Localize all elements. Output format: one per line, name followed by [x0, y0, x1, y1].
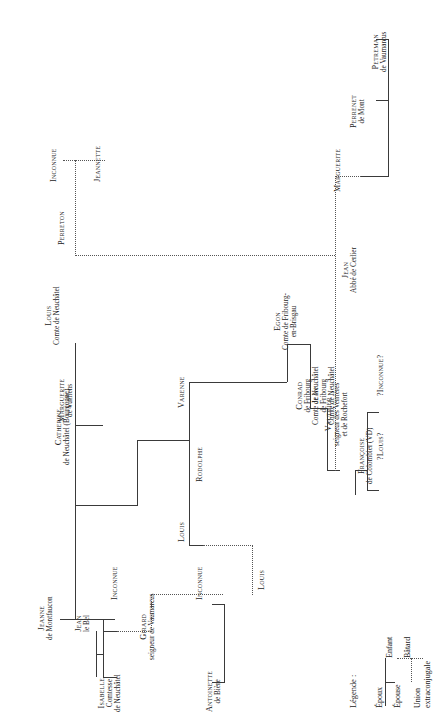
connector-jeanlebel-inconnue-dotted: [117, 631, 151, 632]
connector-egon-conrad: [287, 344, 310, 345]
connector-vauthier-bar: [355, 470, 368, 471]
connector-louis2-inconnue3-dotted: [203, 545, 251, 546]
node-louis-2: Louis: [178, 522, 187, 542]
connector-francoise-spine: [355, 470, 356, 495]
legend-sample-union-dotted: [397, 658, 423, 659]
node-name: Jeannette: [94, 146, 103, 182]
connector-jean-vauthier: [327, 470, 340, 471]
node-name: Louis: [178, 522, 187, 542]
legend: Légende : Époux Épouse Union extraconjug…: [341, 548, 437, 713]
connector-louis2-stub: [189, 545, 203, 546]
connector-to-rodolphe-varenne: [137, 440, 189, 441]
legend-epouse: Épouse: [393, 684, 402, 708]
connector-inconnue-q-stub: [367, 412, 379, 413]
connector-conrad-jean: [310, 408, 327, 409]
connector-varenne-stub: [189, 382, 203, 383]
node-name: Inconnue: [111, 566, 120, 600]
node-egon: Egon Comte de Fribourg- en-Brisgau: [274, 293, 298, 350]
node-jean-cerlier: Jean Abbé de Cerlier: [342, 247, 359, 293]
node-name: Rodolphe: [196, 447, 205, 482]
connector-petreman-stub: [376, 39, 389, 40]
connector-marguerite-bar: [361, 176, 388, 177]
connector-louis-spine: [75, 343, 76, 619]
node-line2: Abbé de Cerlier: [351, 247, 359, 293]
connector-jean-cerlier-vertical: [335, 176, 336, 471]
node-isabelle: Isabelle Comtesse de Neuchâtel: [98, 674, 122, 712]
node-name: Inconnue: [50, 148, 59, 182]
node-line3: et de Rochefort: [342, 383, 350, 446]
node-line2: de Colombier (VD): [367, 428, 375, 484]
node-varenne: Varenne: [178, 376, 187, 408]
connector-louis-marguerite: [75, 425, 103, 426]
node-rodolphe: Rodolphe: [196, 447, 205, 482]
connector-jean-isabelle-bar: [96, 654, 104, 655]
connector-jean-fribourg-spine: [327, 408, 328, 470]
connector-louis-catherine: [75, 505, 137, 506]
connector-louis-jeanne: [60, 619, 115, 620]
connector-child-isabelle: [103, 677, 117, 678]
node-inconnue-q: ?Inconnue?: [377, 355, 386, 396]
legend-epoux: Époux: [375, 687, 384, 708]
node-jeanne: Jeanne de Montfaucon: [38, 596, 55, 640]
connector-girard-louis-dotted: [252, 545, 253, 595]
node-line2: le Bel: [84, 615, 92, 632]
legend-union: Union: [413, 688, 422, 708]
node-petreman: Petreman de Vaumarcus: [372, 32, 389, 72]
node-name: Varenne: [178, 376, 187, 408]
connector-petreman-perrenet-spine: [388, 39, 389, 177]
node-line3: de Neuchâtel: [115, 674, 123, 712]
connector-jeanne-children-spine: [103, 619, 104, 677]
node-line2: de Mont: [359, 95, 367, 128]
node-name: ?Louis?: [377, 432, 386, 460]
connector-rodolphe-varenne-spine: [189, 382, 190, 545]
connector-marguerite-dotted: [335, 176, 361, 177]
node-name: ?Inconnue?: [377, 355, 386, 396]
legend-batard: Bâtard: [403, 637, 412, 658]
connector-inconnue-girard-dotted: [151, 594, 152, 632]
node-line2: de Bière: [215, 671, 223, 712]
connector-inconnue-to-girard: [151, 594, 223, 595]
connector-louis-q-stub: [367, 490, 379, 491]
connector-girard-stub: [212, 604, 225, 605]
node-line2: de Vufflens: [67, 379, 75, 422]
connector-varenne-egon: [203, 382, 287, 383]
node-perrenet: Perrenet de Mont: [350, 95, 367, 128]
node-perreton: Perreton: [58, 211, 67, 245]
node-antoinette: Antoinette de Bière: [206, 671, 223, 712]
connector-vauthier-children-spine: [367, 412, 368, 490]
node-inconnue-2: Inconnue: [50, 148, 59, 182]
genealogy-diagram: Petreman de Vaumarcus Perrenet de Mont M…: [0, 0, 437, 717]
legend-enfant: Enfant: [385, 637, 394, 658]
legend-sample-child-stub: [385, 682, 395, 683]
node-jeannette: Jeannette: [94, 146, 103, 182]
node-inconnue-1: Inconnue: [111, 566, 120, 600]
connector-perreton-jean-cerlier-dotted: [75, 255, 335, 256]
connector-inconnue2-spine: [75, 160, 76, 256]
node-marguerite-vufflens: Marguerite de Vufflens: [58, 379, 75, 422]
node-louis-comte: Louis Comte de Neuchâtel: [45, 286, 62, 345]
node-line3: en-Brisgau: [291, 293, 299, 350]
connector-inconnue2-jeannette-dotted: [63, 160, 105, 161]
legend-sample-batard-dotted: [411, 658, 412, 682]
connector-catherine-children-spine: [137, 440, 138, 506]
connector-conrad-spine: [310, 344, 311, 408]
node-line2: Comte de Neuchâtel: [54, 286, 62, 345]
node-louis-3: Louis: [258, 570, 267, 590]
connector-perrenet-stub: [376, 100, 389, 101]
node-girard: Girard seigneur de Vaumarcus: [140, 593, 157, 660]
connector-child-jean-le-bel: [103, 631, 117, 632]
node-name: Louis: [258, 570, 267, 590]
node-jean-le-bel: Jean le Bel: [75, 615, 92, 632]
node-louis-q: ?Louis?: [377, 432, 386, 460]
connector-egon-spine: [287, 344, 288, 382]
node-name: Perreton: [58, 211, 67, 245]
connector-antoinette-stub: [212, 682, 225, 683]
legend-title: Légende :: [349, 675, 358, 708]
connector-girard-antoinette-spine: [224, 604, 225, 682]
legend-union-2: extraconjugale: [423, 661, 432, 708]
node-jean-fribourg: Jean de Fribourg Comte de Neuchâtel: [312, 366, 336, 425]
node-line2: de Montfaucon: [47, 596, 55, 640]
